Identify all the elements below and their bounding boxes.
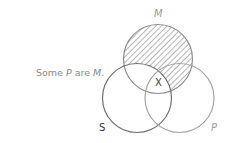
label-s: S	[99, 122, 105, 133]
x-marker: X	[155, 77, 162, 88]
venn-diagram: M S P X	[0, 0, 234, 143]
label-m: M	[154, 8, 163, 19]
label-p: P	[211, 122, 218, 133]
